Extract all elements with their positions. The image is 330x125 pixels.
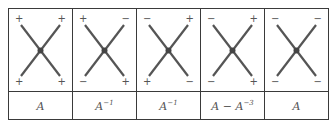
sign-bottom-right: − <box>314 77 322 87</box>
label-cell-2: A−1 <box>73 92 137 120</box>
sign-top-right: − <box>122 14 130 24</box>
label-cell-5: A <box>265 92 329 120</box>
sign-bottom-left: + <box>143 77 151 87</box>
sign-top-right: + <box>250 14 258 24</box>
crossing-row: + + + + + − − + − + + − − + − + − <box>9 9 329 92</box>
crossing-cell-4: − + − + <box>201 9 265 92</box>
label-base: A <box>37 99 45 112</box>
sign-top-right: + <box>186 14 194 24</box>
crossing-cell-3: − + + − <box>137 9 201 92</box>
sign-bottom-left: + <box>15 77 23 87</box>
sign-bottom-right: + <box>58 77 66 87</box>
crossing-cell-1: + + + + <box>9 9 73 92</box>
sign-bottom-right: + <box>122 77 130 87</box>
sign-top-right: + <box>58 14 66 24</box>
label-cell-1: A <box>9 92 73 120</box>
sign-top-left: − <box>207 14 215 24</box>
label-exponent: −1 <box>167 99 177 107</box>
label-cell-3: A−1 <box>137 92 201 120</box>
sign-top-left: + <box>79 14 87 24</box>
sign-top-left: − <box>143 14 151 24</box>
crossing-table: + + + + + − − + − + + − − + − + − <box>8 8 329 120</box>
label-cell-4: A − A−3 <box>201 92 265 120</box>
label-base: A − A <box>211 99 243 112</box>
label-exponent: −3 <box>243 99 253 107</box>
label-base: A <box>293 99 301 112</box>
crossing-cell-5: − − − − <box>265 9 329 92</box>
sign-bottom-left: − <box>79 77 87 87</box>
label-exponent: −1 <box>103 99 113 107</box>
label-row: A A−1 A−1 A − A−3 A <box>9 92 329 120</box>
sign-bottom-left: − <box>207 77 215 87</box>
sign-bottom-right: − <box>186 77 194 87</box>
sign-bottom-left: − <box>271 77 279 87</box>
sign-top-right: − <box>314 14 322 24</box>
sign-top-left: + <box>15 14 23 24</box>
sign-bottom-right: + <box>250 77 258 87</box>
crossing-cell-2: + − − + <box>73 9 137 92</box>
sign-top-left: − <box>271 14 279 24</box>
